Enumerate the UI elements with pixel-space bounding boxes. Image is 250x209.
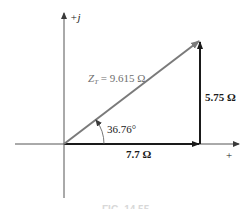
reactance-label: 5.75 Ω [205, 91, 236, 103]
impedance-diagram: +j + ZT = 9.615 Ω 5.75 Ω 36.76° 7.7 Ω FI… [0, 0, 250, 209]
angle-arc [96, 120, 104, 144]
figure-caption: FIG. 14.55 [102, 204, 150, 209]
resistance-label: 7.7 Ω [126, 148, 152, 160]
imaginary-axis-label: +j [70, 11, 80, 23]
real-axis-label: + [226, 149, 232, 161]
angle-label: 36.76° [107, 123, 136, 135]
total-impedance-label: ZT = 9.615 Ω [88, 72, 145, 86]
impedance-value: = 9.615 Ω [98, 72, 145, 84]
